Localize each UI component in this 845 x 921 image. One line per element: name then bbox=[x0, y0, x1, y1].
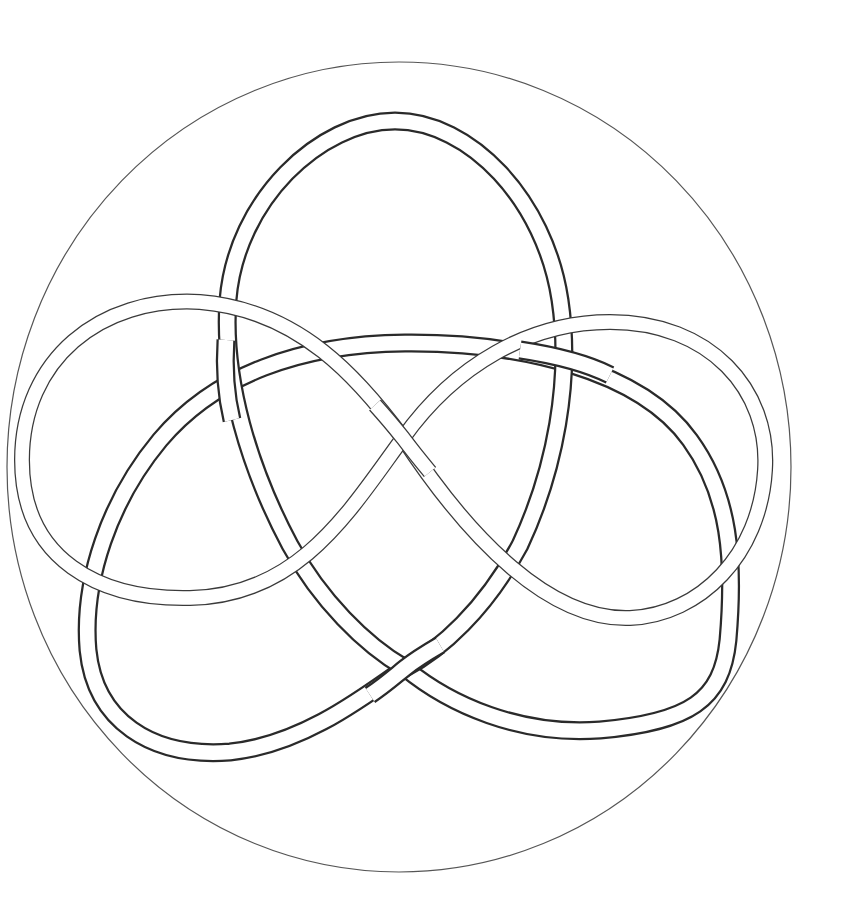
outer-circle bbox=[7, 62, 791, 872]
ribbon-lower-triangle bbox=[87, 343, 730, 753]
knot-diagram bbox=[0, 0, 845, 921]
ribbon-vertical-oval bbox=[227, 121, 564, 668]
crossing-oval-over-triangle-left bbox=[225, 340, 232, 420]
